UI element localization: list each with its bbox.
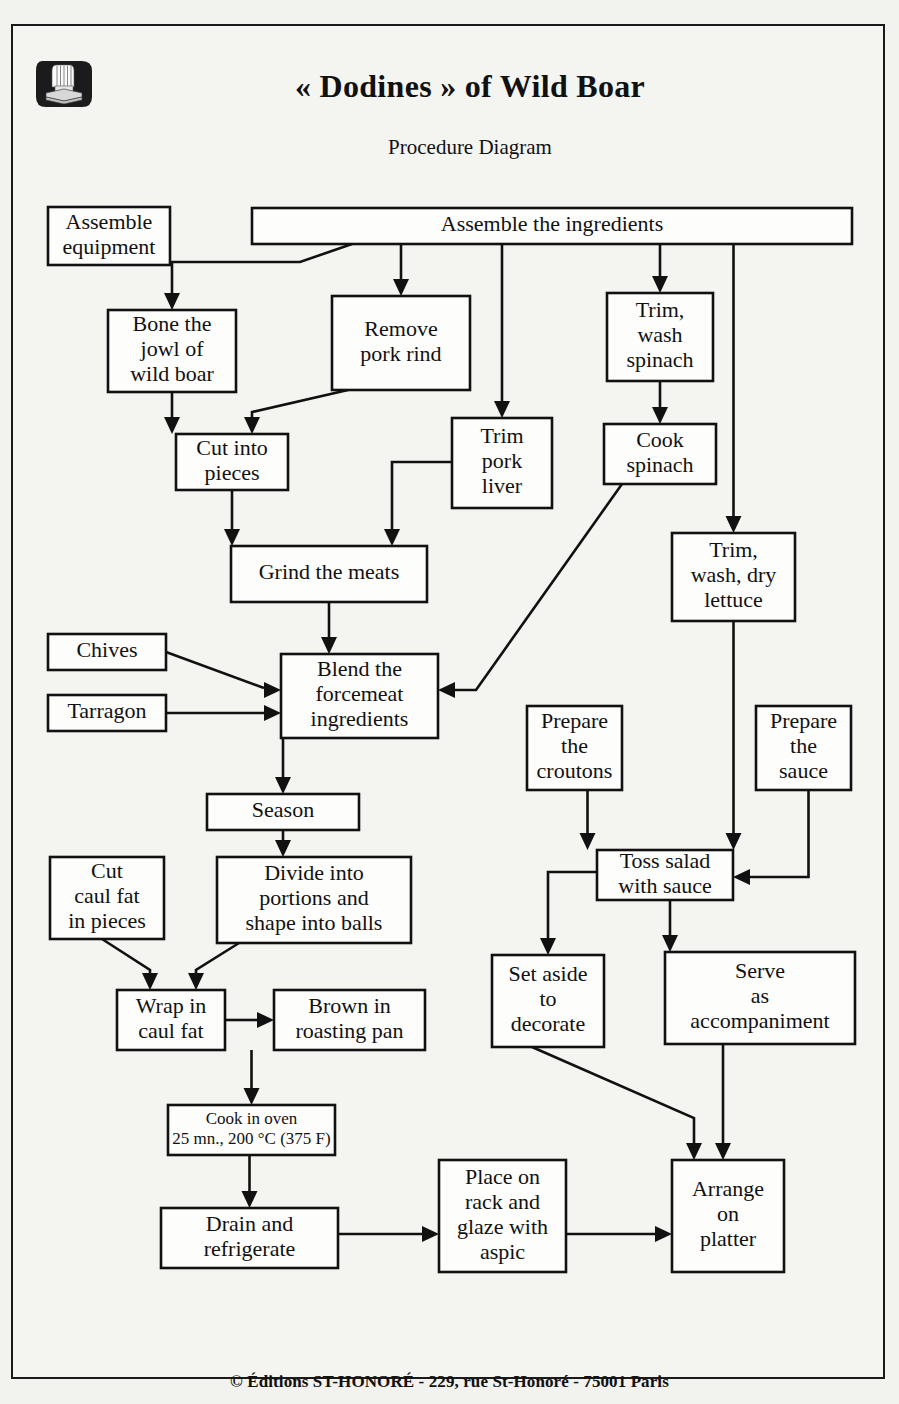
- node-label: Grind the meats: [259, 559, 400, 584]
- node-label: Toss saladwith sauce: [618, 848, 711, 898]
- edge-arrowhead: [384, 529, 400, 546]
- edge-arrowhead: [224, 529, 240, 546]
- edge-arrowhead: [244, 1088, 260, 1105]
- edge-toss-setaside: [548, 872, 597, 938]
- flow-node-brown_roasting_pan: Brown inroasting pan: [274, 990, 425, 1050]
- copyright-footer: © Éditions ST-HONORÉ - 229, rue St-Honor…: [0, 1372, 899, 1392]
- flow-node-cook_oven: Cook in oven25 mn., 200 °C (375 F): [168, 1105, 335, 1155]
- edge-arrowhead: [242, 1191, 258, 1208]
- flow-node-assemble_equipment: Assembleequipment: [48, 207, 170, 265]
- edge-arrowhead: [733, 869, 750, 885]
- diagram-page: « Dodines » of Wild Boar Procedure Diagr…: [0, 0, 899, 1404]
- edge-arrowhead: [580, 833, 596, 850]
- flow-node-serve_accompaniment: Serveasaccompaniment: [665, 952, 855, 1044]
- edge-cookspinach-blend: [455, 484, 622, 690]
- edge-arrowhead: [164, 417, 180, 434]
- node-label: Blend theforcemeatingredients: [311, 656, 409, 731]
- flow-node-remove_rind: Removepork rind: [332, 296, 470, 390]
- node-label: Cut intopieces: [196, 435, 268, 485]
- edge-arrowhead: [244, 417, 260, 434]
- edge-ingredients-bone: [172, 244, 352, 293]
- edge-arrowhead: [652, 276, 668, 293]
- edge-setaside-arrange: [532, 1047, 694, 1143]
- edge-chives-blend: [166, 652, 264, 688]
- edge-arrowhead: [422, 1226, 439, 1242]
- flow-node-cook_spinach: Cookspinach: [604, 424, 716, 484]
- edge-arrowhead: [164, 293, 180, 310]
- flow-node-set_aside: Set asidetodecorate: [492, 955, 604, 1047]
- node-label: Assembleequipment: [63, 209, 156, 259]
- edge-arrowhead: [264, 705, 281, 721]
- edge-arrowhead: [142, 973, 158, 990]
- flow-node-toss_salad: Toss saladwith sauce: [597, 848, 733, 900]
- flow-node-season: Season: [207, 794, 359, 830]
- edge-divide-wrap: [196, 943, 239, 973]
- node-label: Brown inroasting pan: [295, 993, 403, 1043]
- edge-arrowhead: [257, 1012, 274, 1028]
- edge-sauce-toss: [750, 790, 809, 877]
- node-label: Trimporkliver: [480, 423, 523, 498]
- node-label: Chives: [76, 637, 137, 662]
- flow-node-grind_meats: Grind the meats: [231, 546, 427, 602]
- flow-node-arrange_platter: Arrangeonplatter: [672, 1160, 784, 1272]
- edge-arrowhead: [686, 1143, 702, 1160]
- flow-node-wrap_caul_fat: Wrap incaul fat: [117, 990, 225, 1050]
- edge-arrowhead: [540, 938, 556, 955]
- flow-node-trim_wash_spinach: Trim,washspinach: [607, 293, 713, 381]
- edge-arrowhead: [275, 840, 291, 857]
- node-label: Drain andrefrigerate: [204, 1211, 296, 1261]
- flow-node-divide_portions: Divide intoportions andshape into balls: [217, 857, 411, 943]
- edge-arrowhead: [494, 401, 510, 418]
- node-label: Tarragon: [67, 698, 146, 723]
- edge-liver-grind: [392, 462, 452, 529]
- edge-arrowhead: [715, 1143, 731, 1160]
- node-label: Season: [252, 797, 314, 822]
- edge-arrowhead: [726, 833, 742, 850]
- edge-arrowhead: [275, 777, 291, 794]
- edge-rind-cut: [252, 390, 348, 417]
- edge-arrowhead: [264, 682, 281, 698]
- edge-arrowhead: [188, 973, 204, 990]
- flow-node-bone_jowl: Bone thejowl ofwild boar: [108, 310, 236, 392]
- flow-node-cut_pieces: Cut intopieces: [176, 434, 288, 490]
- flow-node-drain_refrigerate: Drain andrefrigerate: [161, 1208, 338, 1268]
- edge-arrowhead: [662, 935, 678, 952]
- node-label: Wrap incaul fat: [136, 993, 207, 1043]
- flow-node-blend_forcemeat: Blend theforcemeatingredients: [281, 654, 438, 738]
- flow-node-trim_pork_liver: Trimporkliver: [452, 418, 552, 508]
- node-label: Removepork rind: [360, 316, 441, 366]
- edge-arrowhead: [321, 637, 337, 654]
- flow-node-prepare_sauce: Preparethesauce: [756, 706, 851, 790]
- edge-caulfat-wrap: [102, 939, 150, 973]
- flowchart-edges: [102, 244, 809, 1242]
- node-label: Cookspinach: [626, 427, 693, 477]
- edge-arrowhead: [438, 682, 455, 698]
- edge-arrowhead: [726, 516, 742, 533]
- procedure-flowchart: AssembleequipmentAssemble the ingredient…: [0, 0, 899, 1404]
- flow-node-assemble_ingredients: Assemble the ingredients: [252, 208, 852, 244]
- flow-node-chives: Chives: [48, 634, 166, 670]
- node-label: Bone thejowl ofwild boar: [130, 311, 214, 386]
- edge-arrowhead: [655, 1226, 672, 1242]
- edge-arrowhead: [652, 407, 668, 424]
- flow-node-tarragon: Tarragon: [48, 695, 166, 731]
- node-label: Assemble the ingredients: [441, 211, 663, 236]
- flow-node-cut_caul_fat: Cutcaul fatin pieces: [50, 857, 164, 939]
- flow-node-place_rack_glaze: Place onrack andglaze withaspic: [439, 1160, 566, 1272]
- node-label: Divide intoportions andshape into balls: [246, 860, 383, 935]
- flow-node-prepare_croutons: Preparethecroutons: [527, 706, 622, 790]
- edge-arrowhead: [393, 279, 409, 296]
- flow-node-trim_wash_dry_lettuce: Trim,wash, drylettuce: [672, 533, 795, 621]
